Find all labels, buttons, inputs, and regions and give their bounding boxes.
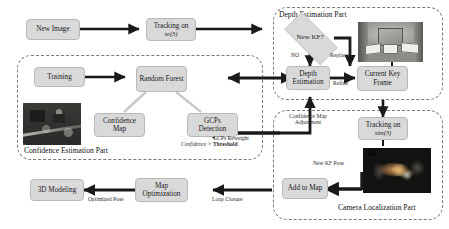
node-3d-modeling[interactable]: 3D Modeling bbox=[30, 179, 84, 201]
edge-label-gcps-reweight: GCPs Reweight bbox=[213, 135, 249, 141]
confidence-map-adjustment-line2: Adjustment bbox=[295, 119, 321, 125]
group-label-confidence-estimation-part: Confidence Estimation Part bbox=[24, 146, 108, 155]
edge-label-confidence-map-adjustment: Confidence Map Adjustment bbox=[289, 113, 326, 126]
node-training[interactable]: Training bbox=[34, 67, 85, 87]
node-confidence-map-label: Confidence Map bbox=[97, 117, 142, 133]
edge-label-confidence-threshold: Confidence > Threshold bbox=[181, 141, 238, 147]
node-new-kf-decision[interactable]: New KF? bbox=[275, 21, 345, 54]
node-tracking-on-se3-sublabel: se(3) bbox=[165, 30, 178, 37]
node-current-key-frame[interactable]: Current Key Frame bbox=[357, 66, 408, 91]
node-tracking-on-sim3-sublabel: sim(3) bbox=[375, 129, 391, 136]
node-depth-estimation[interactable]: Depth Estimation bbox=[286, 66, 330, 90]
node-3d-modeling-label: 3D Modeling bbox=[38, 186, 77, 194]
node-gcps-detection-label: GCPs Detection bbox=[190, 117, 235, 133]
thumbnail-current-key-frame-room bbox=[358, 22, 423, 62]
edge-label-new-kf-pose: New KF Pose bbox=[313, 160, 344, 166]
node-depth-estimation-label: Depth Estimation bbox=[289, 70, 327, 86]
node-training-label: Training bbox=[47, 73, 72, 81]
node-map-optimization[interactable]: Map Optimization bbox=[135, 178, 188, 202]
edge-label-loop-closure: Loop Closure bbox=[212, 196, 243, 202]
edge-label-refine: Refine bbox=[333, 80, 348, 86]
node-tracking-on-se3[interactable]: Tracking on se(3) bbox=[146, 18, 196, 41]
group-label-depth-estimation-part: Depth Estimation Part bbox=[279, 10, 347, 19]
edge-label-optimized-pose: Optimized Pose bbox=[88, 196, 124, 202]
node-new-kf-decision-label: New KF? bbox=[296, 34, 323, 42]
node-add-to-map[interactable]: Add to Map bbox=[282, 178, 328, 199]
edge-label-replace: Replace bbox=[330, 52, 348, 58]
thumbnail-confidence-input-image bbox=[23, 103, 81, 145]
confidence-threshold-prefix: Confidence > bbox=[181, 141, 213, 147]
group-label-camera-localization-part: Camera Localization Part bbox=[338, 203, 416, 212]
confidence-map-adjustment-line1: Confidence Map bbox=[289, 113, 326, 119]
node-tracking-on-se3-label: Tracking on bbox=[154, 22, 189, 30]
node-confidence-map[interactable]: Confidence Map bbox=[94, 113, 145, 137]
edge-label-no: NO bbox=[291, 52, 299, 58]
node-tracking-on-sim3-label: Tracking on bbox=[366, 121, 401, 129]
node-map-optimization-label: Map Optimization bbox=[138, 182, 185, 198]
thumbnail-point-cloud-map bbox=[363, 148, 431, 193]
node-current-key-frame-label: Current Key Frame bbox=[360, 70, 405, 86]
node-new-image-label: New Image bbox=[36, 25, 69, 33]
node-tracking-on-sim3[interactable]: Tracking on sim(3) bbox=[358, 117, 408, 140]
node-random-forest-label: Random Forest bbox=[139, 75, 183, 83]
flowchart-canvas: Depth Estimation Part Confidence Estimat… bbox=[0, 0, 449, 229]
node-gcps-detection[interactable]: GCPs Detection bbox=[187, 113, 238, 137]
node-add-to-map-label: Add to Map bbox=[288, 184, 323, 192]
node-new-image[interactable]: New Image bbox=[26, 19, 80, 40]
node-random-forest[interactable]: Random Forest bbox=[136, 66, 187, 92]
confidence-threshold-value: Threshold bbox=[213, 141, 237, 147]
